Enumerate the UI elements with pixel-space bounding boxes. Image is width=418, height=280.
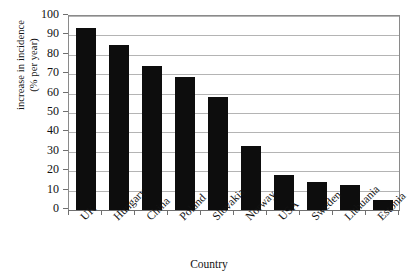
y-axis-tick-label: 100 — [41, 6, 59, 23]
bar — [76, 28, 96, 210]
y-axis-tick-label: 40 — [47, 122, 59, 139]
y-axis-tick-label: 70 — [47, 64, 59, 81]
y-axis-tick-label: 20 — [47, 161, 59, 178]
x-axis-labels: UKHungaryChinaPolandSlovakiaNorwayUSASwe… — [0, 214, 418, 260]
bar — [109, 45, 129, 210]
y-axis-tick-label: 90 — [47, 25, 59, 42]
bar — [208, 97, 228, 210]
y-axis-tick-label: 60 — [47, 84, 59, 101]
plot-area — [68, 15, 400, 211]
bar-series — [69, 16, 399, 210]
bar — [142, 66, 162, 210]
bar-chart: increase in incidence (% per year) 10090… — [0, 0, 418, 280]
y-axis-tick-label: 10 — [47, 181, 59, 198]
y-axis-tick-label: 50 — [47, 103, 59, 120]
y-axis: 1009080706050403020100 — [0, 15, 68, 209]
x-axis-title: Country — [0, 258, 418, 270]
y-axis-tick-label: 30 — [47, 142, 59, 159]
y-axis-tick-label: 80 — [47, 45, 59, 62]
bar — [175, 77, 195, 210]
